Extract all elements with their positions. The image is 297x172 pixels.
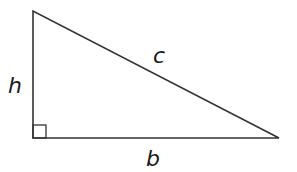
label-height: h [8,73,22,98]
right-triangle [33,11,279,138]
right-angle-marker [33,125,46,138]
label-hypotenuse: c [153,43,165,68]
label-base: b [146,146,160,171]
triangle-diagram: h c b [0,0,297,172]
